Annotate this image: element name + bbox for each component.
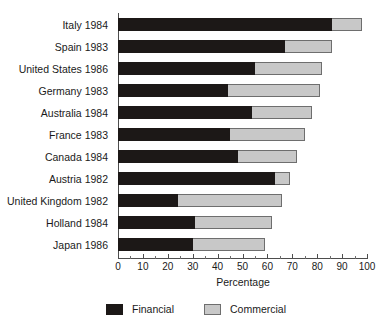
bar-segment-commercial [193, 238, 265, 251]
x-tick-minor [280, 256, 281, 259]
bar-segment-commercial [252, 106, 312, 119]
bar-segment-commercial [195, 216, 272, 229]
stacked-bar [118, 150, 297, 163]
x-tick-label: 50 [237, 261, 248, 272]
bar-row [118, 14, 367, 36]
x-tick-minor [230, 256, 231, 259]
x-tick-label: 10 [137, 261, 148, 272]
category-label: Germany 1983 [0, 80, 113, 102]
bar-row [118, 58, 367, 80]
bar-segment-financial [118, 18, 332, 31]
category-label: United Kingdom 1982 [0, 190, 113, 212]
legend-label-financial: Financial [132, 303, 174, 315]
bar-rows [118, 14, 367, 256]
stacked-bar [118, 62, 322, 75]
bar-segment-financial [118, 150, 238, 163]
bar-row [118, 146, 367, 168]
bar-row [118, 80, 367, 102]
stacked-bar-chart: Italy 1984Spain 1983United States 1986Ge… [0, 0, 392, 329]
bar-segment-financial [118, 62, 255, 75]
x-tick-minor [130, 256, 131, 259]
x-axis-tick-labels: 0102030405060708090100 [0, 261, 392, 275]
x-tick-label: 80 [312, 261, 323, 272]
legend-item-commercial: Commercial [204, 303, 286, 315]
plot-area [118, 14, 367, 256]
category-label: Italy 1984 [0, 14, 113, 36]
x-axis-title: Percentage [118, 276, 368, 288]
stacked-bar [118, 128, 305, 141]
bar-segment-commercial [238, 150, 298, 163]
category-label: United States 1986 [0, 58, 113, 80]
bar-segment-financial [118, 172, 275, 185]
bar-row [118, 168, 367, 190]
stacked-bar [118, 40, 332, 53]
x-tick-minor [305, 256, 306, 259]
bar-segment-financial [118, 194, 178, 207]
x-tick-label: 20 [162, 261, 173, 272]
stacked-bar [118, 194, 282, 207]
bar-row [118, 190, 367, 212]
bar-row [118, 36, 367, 58]
stacked-bar [118, 216, 272, 229]
stacked-bar [118, 18, 362, 31]
category-label: Holland 1984 [0, 212, 113, 234]
category-label: Spain 1983 [0, 36, 113, 58]
x-tick-minor [330, 256, 331, 259]
bar-segment-financial [118, 40, 285, 53]
x-tick-major [317, 254, 318, 259]
x-tick-minor [255, 256, 256, 259]
x-tick-label: 60 [262, 261, 273, 272]
x-tick-label: 0 [115, 261, 121, 272]
bar-row [118, 234, 367, 256]
bar-segment-financial [118, 84, 228, 97]
category-label: Austria 1982 [0, 168, 113, 190]
stacked-bar [118, 84, 320, 97]
stacked-bar [118, 172, 290, 185]
x-tick-minor [205, 256, 206, 259]
x-tick-major [367, 254, 368, 259]
x-tick-major [243, 254, 244, 259]
bar-segment-commercial [275, 172, 290, 185]
bar-segment-commercial [255, 62, 322, 75]
x-tick-major [218, 254, 219, 259]
category-label: Japan 1986 [0, 234, 113, 256]
bar-segment-financial [118, 238, 193, 251]
stacked-bar [118, 238, 265, 251]
x-tick-major [292, 254, 293, 259]
bar-segment-commercial [230, 128, 305, 141]
x-tick-minor [155, 256, 156, 259]
x-tick-label: 70 [287, 261, 298, 272]
category-axis-labels: Italy 1984Spain 1983United States 1986Ge… [0, 14, 113, 256]
chart-legend: Financial Commercial [0, 303, 392, 315]
category-label: Canada 1984 [0, 146, 113, 168]
x-tick-major [342, 254, 343, 259]
bar-segment-commercial [178, 194, 283, 207]
x-tick-major [118, 254, 119, 259]
legend-item-financial: Financial [106, 303, 174, 315]
bar-segment-financial [118, 128, 230, 141]
x-axis-ticks [118, 254, 368, 259]
category-label: France 1983 [0, 124, 113, 146]
x-tick-major [168, 254, 169, 259]
bar-row [118, 212, 367, 234]
bar-row [118, 102, 367, 124]
x-tick-major [193, 254, 194, 259]
x-tick-minor [180, 256, 181, 259]
bar-segment-commercial [228, 84, 320, 97]
bar-segment-financial [118, 216, 195, 229]
bar-segment-financial [118, 106, 252, 119]
bar-row [118, 124, 367, 146]
x-tick-label: 90 [337, 261, 348, 272]
commercial-swatch-icon [204, 304, 221, 315]
x-tick-label: 100 [359, 261, 376, 272]
x-tick-minor [355, 256, 356, 259]
category-label: Australia 1984 [0, 102, 113, 124]
bar-segment-commercial [285, 40, 332, 53]
financial-swatch-icon [106, 304, 123, 315]
x-tick-label: 40 [212, 261, 223, 272]
legend-label-commercial: Commercial [230, 303, 286, 315]
x-tick-major [267, 254, 268, 259]
bar-segment-commercial [332, 18, 362, 31]
x-tick-label: 30 [187, 261, 198, 272]
x-tick-major [143, 254, 144, 259]
